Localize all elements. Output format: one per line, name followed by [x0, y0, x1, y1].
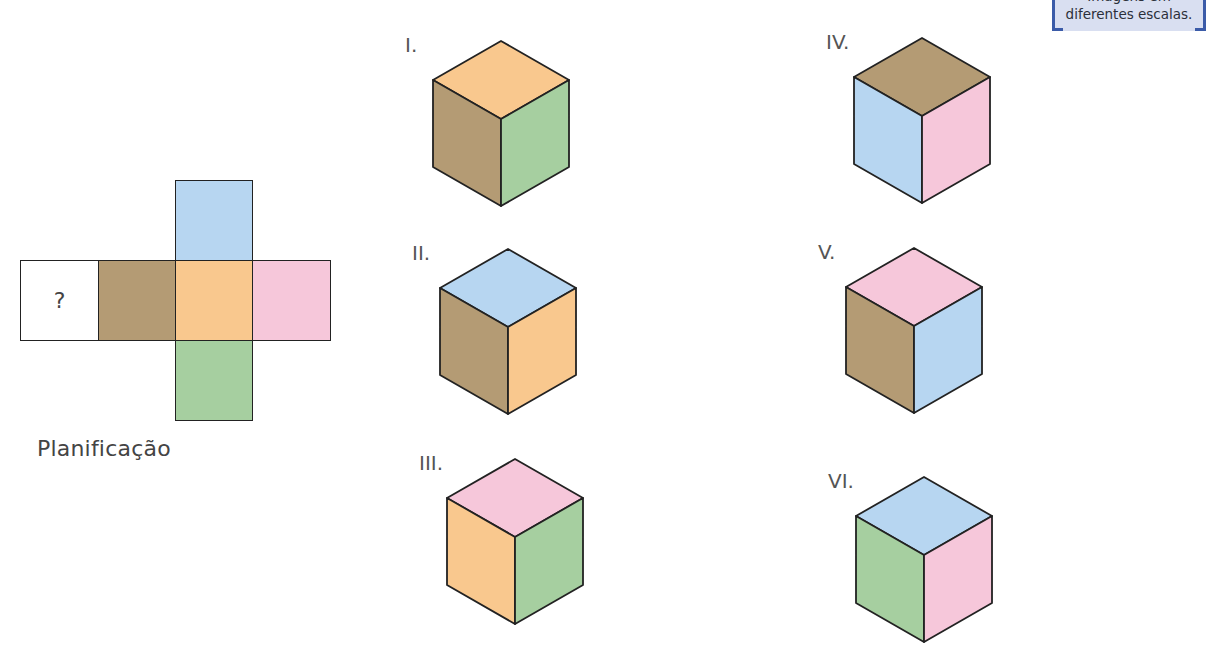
cube-option-2: [440, 249, 576, 414]
cube-option-1: [433, 41, 569, 206]
cube-option-3: [447, 459, 583, 624]
cube-options: [0, 0, 1213, 661]
cube-label: IV.: [826, 30, 849, 54]
cube-label: I.: [405, 33, 417, 57]
cube-label: V.: [818, 240, 835, 264]
cube-label: VI.: [828, 469, 854, 493]
cube-label: III.: [419, 451, 443, 475]
cube-option-5: [846, 248, 982, 413]
cube-option-4: [854, 38, 990, 203]
cube-option-6: [856, 477, 992, 642]
cube-label: II.: [412, 241, 430, 265]
